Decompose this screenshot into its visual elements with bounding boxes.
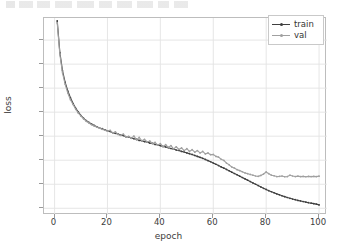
- y-tick-mark: [39, 111, 43, 112]
- x-tick-mark: [54, 214, 55, 218]
- x-tick-label: 0: [51, 217, 56, 227]
- x-tick-label: 40: [154, 217, 165, 227]
- loss-curve-figure: loss epoch 0.000.250.500.751.001.251.501…: [0, 0, 337, 248]
- legend-item-val: val: [272, 30, 319, 41]
- y-axis-label: loss: [3, 75, 13, 135]
- x-tick-label: 20: [101, 217, 112, 227]
- x-tick-mark: [106, 214, 107, 218]
- legend-item-train: train: [272, 19, 319, 30]
- y-tick-mark: [39, 87, 43, 88]
- x-tick-mark: [159, 214, 160, 218]
- y-tick-mark: [39, 135, 43, 136]
- chart-legend: train val: [268, 15, 324, 45]
- y-tick-mark: [39, 207, 43, 208]
- x-tick-mark: [212, 214, 213, 218]
- top-clipped-text-artifact: [6, 1, 196, 8]
- y-tick-mark: [39, 39, 43, 40]
- legend-line-marker-train: [272, 20, 290, 29]
- legend-label-train: train: [294, 20, 314, 29]
- y-tick-mark: [39, 183, 43, 184]
- legend-label-val: val: [294, 31, 307, 40]
- chart-canvas: [44, 18, 327, 215]
- x-tick-mark: [318, 214, 319, 218]
- x-tick-label: 60: [207, 217, 218, 227]
- legend-line-marker-val: [272, 31, 290, 40]
- y-tick-mark: [39, 159, 43, 160]
- x-tick-mark: [265, 214, 266, 218]
- y-tick-mark: [39, 63, 43, 64]
- plot-area: [43, 17, 326, 214]
- x-axis-label: epoch: [0, 231, 337, 241]
- x-tick-label: 80: [260, 217, 271, 227]
- x-tick-label: 100: [310, 217, 326, 227]
